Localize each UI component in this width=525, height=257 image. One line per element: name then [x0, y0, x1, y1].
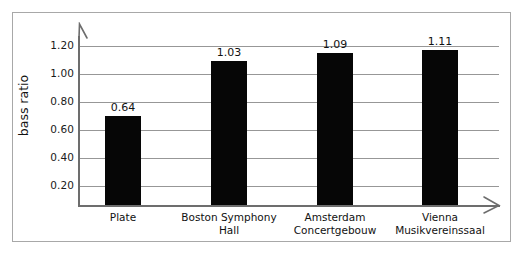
ytick-1.00: 1.00	[30, 68, 74, 79]
x-axis-line	[78, 205, 500, 207]
ytick-0.40: 0.40	[30, 152, 74, 163]
category-label-vienna-musikvereinssaal: Vienna Musikvereinssaal	[365, 211, 515, 236]
ytick-label: 0.60	[34, 124, 74, 135]
category-label-line: Musikvereinssaal	[365, 224, 515, 237]
bar-boston-symphony-hall	[211, 61, 247, 205]
ytick-0.20: 0.20	[30, 180, 74, 191]
bar-value-boston-symphony-hall: 1.03	[189, 47, 269, 59]
up-arrow-icon	[68, 22, 90, 42]
y-axis-title: bass ratio	[16, 61, 31, 151]
bar-value-amsterdam-concertgebouw: 1.09	[295, 39, 375, 51]
ytick-label: 0.40	[34, 152, 74, 163]
ytick-label: 1.00	[34, 68, 74, 79]
bar-value-plate: 0.64	[83, 102, 163, 114]
chart-plot-area: 1.20 1.00 0.80 0.60 0.40 0.20 bass ratio	[0, 0, 525, 257]
ytick-0.60: 0.60	[30, 124, 74, 135]
ytick-label: 0.80	[34, 96, 74, 107]
bar-vienna-musikvereinssaal	[422, 50, 458, 205]
y-axis-line	[78, 36, 80, 206]
category-label-line: Vienna	[365, 211, 515, 224]
ytick-label: 0.20	[34, 180, 74, 191]
ytick-0.80: 0.80	[30, 96, 74, 107]
chart-screenshot: 1.20 1.00 0.80 0.60 0.40 0.20 bass ratio	[0, 0, 525, 257]
bar-value-vienna-musikvereinssaal: 1.11	[400, 36, 480, 48]
bar-plate	[105, 116, 141, 205]
bar-amsterdam-concertgebouw	[317, 53, 353, 205]
